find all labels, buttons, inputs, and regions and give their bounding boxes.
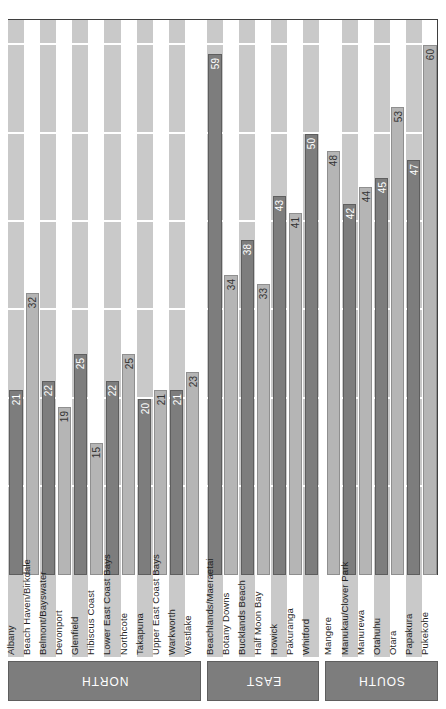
- region-banner-north: NORTH: [8, 661, 201, 701]
- bar-value-label: 41: [290, 217, 301, 229]
- bar[interactable]: 59: [208, 54, 221, 575]
- category-label: Half Moon Bay: [253, 591, 263, 655]
- category-label: Devonport: [54, 610, 64, 655]
- bar-value-label: 32: [27, 296, 38, 308]
- bar-value-label: 21: [11, 393, 22, 405]
- bar[interactable]: 32: [26, 293, 39, 575]
- bar-value-label: 59: [209, 58, 220, 70]
- bar[interactable]: 60: [423, 45, 436, 575]
- category-label: Pukekohe: [420, 612, 430, 655]
- bar-value-label: 48: [328, 155, 339, 167]
- bar[interactable]: 47: [407, 160, 420, 575]
- gridline: [8, 485, 437, 487]
- category-label: Beachlands/Maeraetai: [205, 558, 215, 655]
- category-label: Hibiscus Coast: [86, 590, 96, 655]
- gridline: [8, 308, 437, 310]
- bar-value-label: 21: [155, 393, 166, 405]
- bar[interactable]: 25: [122, 354, 135, 575]
- bar-value-label: 15: [91, 446, 102, 458]
- bar-value-label: 34: [226, 279, 237, 291]
- bar-value-label: 19: [59, 411, 70, 423]
- category-label: Northcote: [119, 613, 129, 655]
- bar[interactable]: 50: [305, 134, 318, 575]
- bar[interactable]: 20: [138, 399, 151, 576]
- category-label: Pakuranga: [285, 608, 295, 655]
- category-label: Upper East Coast Bays: [151, 554, 161, 655]
- bar-value-label: 53: [392, 111, 403, 123]
- bar[interactable]: 41: [289, 213, 302, 575]
- bar-value-label: 47: [408, 164, 419, 176]
- bar-value-label: 22: [43, 385, 54, 397]
- bar[interactable]: 21: [9, 390, 22, 575]
- chart-root: 2132221925152225202121235934383343415048…: [0, 0, 446, 709]
- category-label: Manurewa: [356, 610, 366, 655]
- category-label: Botany Downs: [221, 593, 231, 655]
- category-label: Whitford: [301, 619, 311, 655]
- bar-value-label: 20: [139, 402, 150, 414]
- bar[interactable]: 22: [106, 381, 119, 575]
- category-label: Glenfield: [70, 617, 80, 655]
- region-banner-south: SOUTH: [325, 661, 438, 701]
- bar[interactable]: 42: [343, 204, 356, 575]
- category-label: Takapuna: [135, 613, 145, 655]
- gridline: [8, 220, 437, 222]
- bar-value-label: 43: [274, 199, 285, 211]
- bar[interactable]: 19: [58, 407, 71, 575]
- bar-value-label: 38: [242, 243, 253, 255]
- bar[interactable]: 48: [327, 151, 340, 575]
- plot-area: 2132221925152225202121235934383343415048…: [8, 19, 438, 575]
- bar[interactable]: 44: [359, 187, 372, 575]
- category-label-cell: Pukekohe: [422, 575, 438, 657]
- bar[interactable]: 38: [241, 240, 254, 575]
- bar[interactable]: 33: [257, 284, 270, 575]
- bar-value-label: 21: [171, 393, 182, 405]
- bar-value-label: 50: [306, 137, 317, 149]
- bar[interactable]: 21: [154, 390, 167, 575]
- region-label: EAST: [246, 674, 281, 688]
- category-label: Lower East Coast Bays: [102, 554, 112, 655]
- gridline: [8, 132, 437, 134]
- category-label: Otahuhu: [372, 618, 382, 655]
- region-banner-east: EAST: [207, 661, 320, 701]
- bar-value-label: 23: [187, 376, 198, 388]
- bar[interactable]: 45: [375, 178, 388, 575]
- gridline: [8, 397, 437, 399]
- category-label: Beach Haven/Birkdale: [22, 559, 32, 655]
- bar-value-label: 42: [344, 208, 355, 220]
- category-label: Mangere: [323, 617, 333, 655]
- bar[interactable]: 53: [391, 107, 404, 575]
- bar-value-label: 44: [360, 190, 371, 202]
- category-label: Bucklands Beach: [237, 580, 247, 655]
- bar[interactable]: 43: [273, 196, 286, 575]
- bar[interactable]: 34: [224, 275, 237, 575]
- category-label: Otara: [388, 631, 398, 655]
- category-axis-labels: AlbanyBeach Haven/BirkdaleBelmont/Bayswa…: [8, 575, 438, 657]
- category-label: Westlake: [183, 615, 193, 655]
- region-label: SOUTH: [358, 674, 405, 688]
- bar-value-label: 60: [424, 49, 435, 61]
- gridline: [8, 43, 437, 45]
- bar[interactable]: 25: [74, 354, 87, 575]
- category-label: Manukau/Clover Park: [340, 562, 350, 655]
- bar[interactable]: 23: [186, 372, 199, 575]
- bar[interactable]: 22: [42, 381, 55, 575]
- category-label: Papakura: [404, 614, 414, 655]
- bar-value-label: 25: [123, 358, 134, 370]
- bar-value-label: 33: [258, 288, 269, 300]
- category-label: Belmont/Bayswater: [38, 571, 48, 655]
- bar-value-label: 25: [75, 358, 86, 370]
- bar-value-label: 45: [376, 182, 387, 194]
- bar[interactable]: 21: [170, 390, 183, 575]
- category-label: Howick: [269, 624, 279, 655]
- region-label: NORTH: [81, 674, 128, 688]
- bar-value-label: 22: [107, 385, 118, 397]
- category-label-cell: Whitford: [303, 575, 319, 657]
- category-label: Warkworth: [167, 609, 177, 655]
- category-label-cell: Westlake: [185, 575, 201, 657]
- category-label: Albany: [6, 625, 16, 655]
